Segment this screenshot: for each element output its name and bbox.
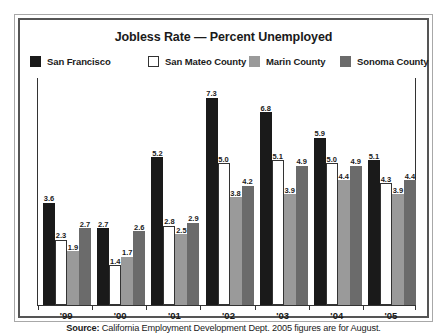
legend-swatch-icon xyxy=(30,56,41,67)
page-title: Jobless Rate — Percent Unemployed xyxy=(20,30,427,44)
bar-value-label: 5.1 xyxy=(272,153,282,161)
bar[interactable]: 4.9 xyxy=(350,166,362,305)
x-axis-tick xyxy=(92,305,93,310)
bar-value-label: 4.4 xyxy=(339,173,349,181)
bar-value-label: 5.0 xyxy=(218,156,228,164)
bar-slot: 4.9 xyxy=(350,78,362,305)
bar-value-label: 2.8 xyxy=(164,218,174,226)
bar[interactable]: 3.8 xyxy=(230,197,242,305)
legend-item-label: San Mateo County xyxy=(165,56,246,67)
bar[interactable]: 7.3 xyxy=(206,98,218,305)
bar-value-label: 2.5 xyxy=(176,227,186,235)
bar-slot: 6.8 xyxy=(260,78,272,305)
bar[interactable]: 4.2 xyxy=(242,186,254,305)
bar-value-label: 3.9 xyxy=(393,187,403,195)
bar-value-label: 4.9 xyxy=(296,158,306,166)
legend-swatch-icon xyxy=(249,56,260,67)
x-axis-tick xyxy=(255,305,256,310)
bar-slot: 5.1 xyxy=(272,78,284,305)
bar[interactable]: 2.9 xyxy=(187,223,199,305)
bar-slot: 2.7 xyxy=(79,78,91,305)
bar-value-label: 2.3 xyxy=(56,232,66,240)
bar-group-00: 2.71.41.72.6 xyxy=(97,78,145,305)
bar[interactable]: 3.6 xyxy=(43,203,55,305)
bar-slot: 5.2 xyxy=(151,78,163,305)
x-axis-label: '04 xyxy=(330,310,343,321)
bar[interactable]: 2.7 xyxy=(79,228,91,305)
x-axis-tick xyxy=(200,305,201,310)
bar-value-label: 5.1 xyxy=(369,153,379,161)
bar-value-label: 2.7 xyxy=(98,221,108,229)
bar-slot: 1.9 xyxy=(67,78,79,305)
bar-slot: 2.7 xyxy=(97,78,109,305)
bar[interactable]: 2.7 xyxy=(97,228,109,305)
legend-item-label: San Francisco xyxy=(47,56,111,67)
bar-slot: 5.0 xyxy=(326,78,338,305)
bar-slot: 4.2 xyxy=(242,78,254,305)
legend-item-marin-county[interactable]: Marin County xyxy=(249,56,326,67)
bar[interactable]: 1.9 xyxy=(67,251,79,305)
x-axis-line xyxy=(37,305,416,306)
bar-slot: 5.0 xyxy=(218,78,230,305)
legend-item-san-francisco[interactable]: San Francisco xyxy=(30,56,111,67)
bar[interactable]: 4.3 xyxy=(380,183,392,305)
x-axis-tick xyxy=(415,305,416,310)
bar-group-04: 5.95.04.44.9 xyxy=(314,78,362,305)
legend-swatch-icon xyxy=(340,56,351,67)
bar-value-label: 3.8 xyxy=(230,190,240,198)
bar[interactable]: 1.4 xyxy=(109,265,121,305)
bar-group-03: 6.85.13.94.9 xyxy=(260,78,308,305)
bar-value-label: 1.7 xyxy=(122,249,132,257)
bar[interactable]: 5.1 xyxy=(272,160,284,305)
bar[interactable]: 2.5 xyxy=(175,234,187,305)
bar[interactable]: 5.1 xyxy=(368,160,380,305)
bar-group-01: 5.22.82.52.9 xyxy=(151,78,199,305)
bar[interactable]: 5.2 xyxy=(151,157,163,305)
plot-area: 3.62.31.92.72.71.41.72.65.22.82.52.97.35… xyxy=(37,78,416,305)
bar-value-label: 5.0 xyxy=(327,156,337,164)
bar[interactable]: 6.8 xyxy=(260,112,272,305)
bar-value-label: 5.2 xyxy=(152,150,162,158)
bar[interactable]: 3.9 xyxy=(284,194,296,305)
bar[interactable]: 4.4 xyxy=(338,180,350,305)
x-axis-label: '00 xyxy=(114,310,127,321)
bar-value-label: 4.4 xyxy=(405,173,415,181)
chart-figure: Jobless Rate — Percent Unemployed San Fr… xyxy=(14,14,433,322)
bar-group-99: 3.62.31.92.7 xyxy=(43,78,91,305)
bar[interactable]: 3.9 xyxy=(392,194,404,305)
bar[interactable]: 2.6 xyxy=(133,231,145,305)
legend-item-san-mateo-county[interactable]: San Mateo County xyxy=(148,56,246,67)
x-axis-label: '05 xyxy=(385,310,398,321)
bar[interactable]: 1.7 xyxy=(121,257,133,305)
bar[interactable]: 5.9 xyxy=(314,138,326,305)
source-text: California Employment Development Dept. … xyxy=(99,323,380,333)
source-note: Source: California Employment Developmen… xyxy=(20,323,427,333)
legend-item-label: Marin County xyxy=(266,56,326,67)
bar-slot: 4.4 xyxy=(404,78,416,305)
bar-slot: 2.6 xyxy=(133,78,145,305)
bar-slot: 5.1 xyxy=(368,78,380,305)
bar-slot: 2.8 xyxy=(163,78,175,305)
bar[interactable]: 2.8 xyxy=(163,226,175,305)
chart-legend: San FranciscoSan Mateo CountyMarin Count… xyxy=(30,53,421,69)
bar[interactable]: 5.0 xyxy=(218,163,230,305)
x-axis-tick xyxy=(363,305,364,310)
bar-value-label: 1.9 xyxy=(68,244,78,252)
x-axis-label: '03 xyxy=(276,310,289,321)
bar-value-label: 3.9 xyxy=(284,187,294,195)
bar-slot: 4.4 xyxy=(338,78,350,305)
bar-value-label: 5.9 xyxy=(315,130,325,138)
x-axis-tick xyxy=(38,305,39,310)
bar-slot: 1.7 xyxy=(121,78,133,305)
bar[interactable]: 4.9 xyxy=(296,166,308,305)
bar-value-label: 6.8 xyxy=(260,105,270,113)
bar-slot: 1.4 xyxy=(109,78,121,305)
bar[interactable]: 2.3 xyxy=(55,240,67,305)
chart-frame: Jobless Rate — Percent Unemployed San Fr… xyxy=(18,18,429,318)
bar-slot: 3.8 xyxy=(230,78,242,305)
bar-value-label: 4.2 xyxy=(242,178,252,186)
legend-item-label: Sonoma County xyxy=(357,56,429,67)
legend-item-sonoma-county[interactable]: Sonoma County xyxy=(340,56,429,67)
bar[interactable]: 4.4 xyxy=(404,180,416,305)
bar[interactable]: 5.0 xyxy=(326,163,338,305)
